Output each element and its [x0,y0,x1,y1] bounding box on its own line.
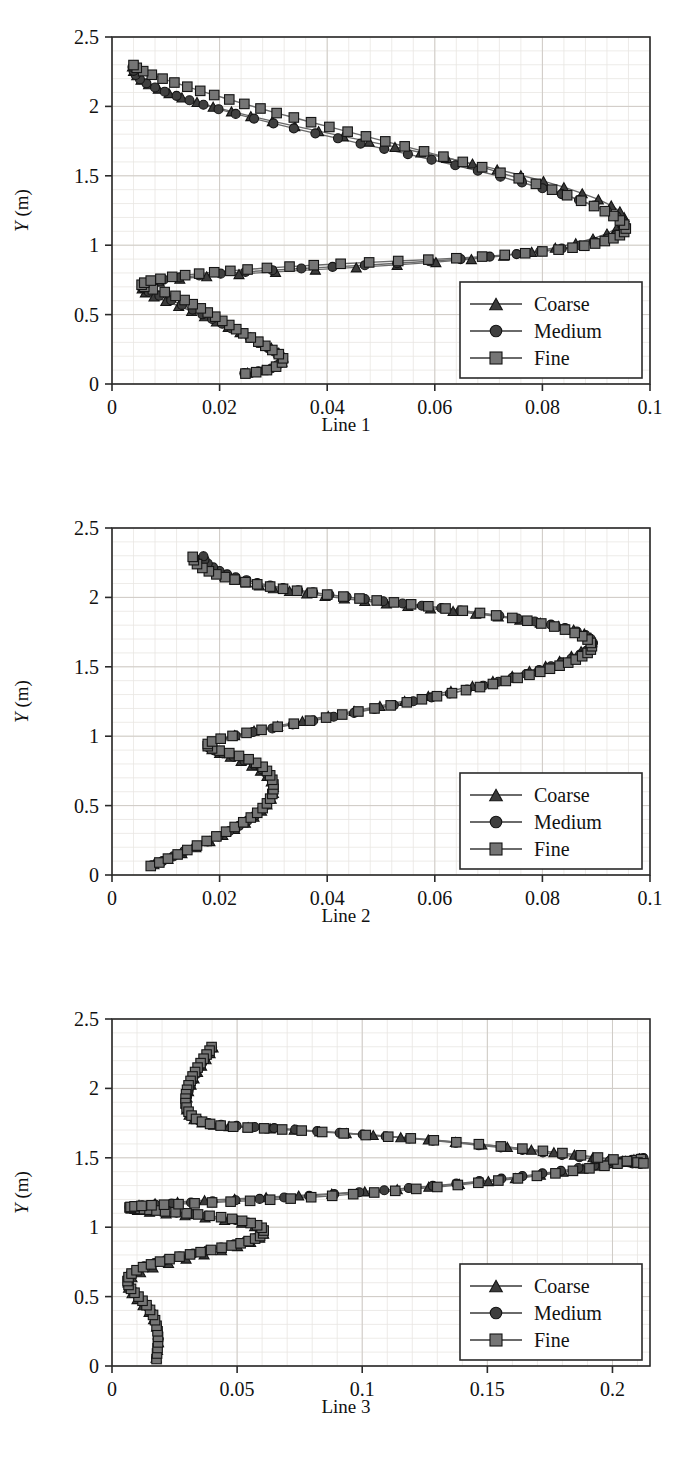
data-point-fine [475,608,485,618]
data-point-fine [364,258,374,268]
data-point-fine [576,1151,586,1161]
data-point-medium [297,264,306,273]
data-point-fine [547,185,557,195]
data-point-medium [160,87,169,96]
circle-marker [490,325,502,337]
data-point-fine [348,1189,358,1199]
data-point-fine [568,1166,578,1176]
data-point-fine [185,1250,195,1260]
data-point-fine [639,1159,649,1169]
data-point-fine [277,1125,287,1135]
data-point-fine [600,206,610,216]
data-point-medium [255,1194,264,1203]
data-point-fine [129,60,139,70]
data-point-fine [307,588,317,598]
data-point-fine [386,701,396,711]
series-line-coarse [186,1047,640,1163]
data-point-fine [173,850,183,860]
data-point-fine [230,575,240,585]
data-point-fine [370,704,380,714]
legend-label-coarse: Coarse [534,1275,590,1297]
y-tick-label: 0 [89,864,99,886]
data-point-medium [398,599,407,608]
data-point-fine [327,1191,337,1201]
data-point-fine [225,95,235,105]
data-point-fine [195,86,205,96]
data-point-fine [523,616,533,626]
y-axis-label: Y (m) [11,189,33,232]
data-point-fine [188,552,198,562]
data-point-fine [477,162,487,172]
x-tick-label: 0.02 [202,396,237,418]
legend[interactable]: CoarseMediumFine [460,1264,642,1360]
data-point-fine [158,74,168,84]
y-tick-label: 0.5 [74,1286,99,1308]
data-point-fine [589,201,599,211]
data-point-fine [170,78,180,88]
data-point-fine [453,1180,463,1190]
data-point-fine [593,1153,603,1163]
data-point-fine [216,1121,226,1131]
data-point-fine [272,108,282,118]
data-point-medium [269,119,278,128]
data-point-fine [137,1201,147,1211]
y-axis-label: Y (m) [11,680,33,723]
data-point-fine [474,1178,484,1188]
data-point-fine [289,113,299,123]
data-point-fine [354,707,364,717]
legend-label-medium: Medium [534,320,602,342]
data-point-fine [501,676,511,686]
data-point-fine [609,1155,619,1165]
data-point-fine [496,168,506,178]
data-point-fine [452,254,462,264]
legend-label-medium: Medium [534,811,602,833]
x-tick-label: 0.04 [310,887,345,909]
data-point-fine [242,728,252,738]
data-point-fine [163,854,173,864]
data-point-fine [494,1176,504,1186]
y-tick-label: 0.5 [74,795,99,817]
data-point-medium [231,109,240,118]
x-tick-label: 0 [107,887,117,909]
data-point-fine [317,1127,327,1137]
data-point-medium [185,96,194,105]
legend-label-coarse: Coarse [534,784,590,806]
data-point-fine [262,263,272,273]
data-point-fine [297,1126,307,1136]
data-point-fine [525,670,535,680]
data-point-medium [512,250,521,259]
data-point-fine [475,682,485,692]
y-tick-label: 1.5 [74,656,99,678]
data-point-fine [234,751,244,761]
data-point-fine [558,1148,568,1158]
data-point-fine [531,179,541,189]
data-point-fine [305,716,315,726]
legend[interactable]: CoarseMediumFine [460,773,642,869]
data-point-fine [400,142,410,152]
data-point-fine [285,262,295,272]
data-point-fine [207,1198,217,1208]
legend[interactable]: CoarseMediumFine [460,282,642,378]
data-point-fine [160,287,170,297]
data-point-fine [514,174,524,184]
data-point-fine [393,256,403,266]
data-point-fine [417,695,427,705]
data-point-fine [458,606,468,616]
data-point-fine [339,592,349,602]
data-point-fine [491,611,501,621]
data-point-fine [538,247,548,257]
y-tick-label: 0 [89,373,99,395]
data-point-fine [257,725,267,735]
panel-line-3: 00.050.10.150.200.511.522.5Y (m)U (m/s)C… [0,982,692,1473]
data-point-fine [343,127,353,137]
data-point-fine [441,604,451,614]
data-point-fine [202,836,212,846]
data-point-fine [560,625,570,635]
legend-label-fine: Fine [534,838,570,860]
figure-page: 00.020.040.060.080.100.511.522.5Y (m)U (… [0,0,692,1473]
data-point-fine [580,241,590,251]
x-tick-label: 0 [107,1378,117,1400]
data-point-fine [432,691,442,701]
data-point-fine [171,291,181,301]
data-point-fine [585,1164,595,1174]
